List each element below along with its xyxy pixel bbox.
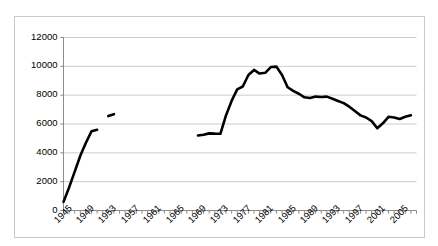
chart-container: 020004000600080001000012000 194519491953… xyxy=(0,0,438,246)
series-1-segment-1945-1951 xyxy=(64,130,98,202)
y-tick-label-4000: 4000 xyxy=(0,147,58,157)
series-1-segment-1953-1954 xyxy=(108,114,114,116)
y-tick-label-0: 0 xyxy=(0,205,58,215)
y-tick-label-2000: 2000 xyxy=(0,176,58,186)
y-tick-label-10000: 10000 xyxy=(0,60,58,70)
y-tick-label-8000: 8000 xyxy=(0,89,58,99)
gridlines xyxy=(64,38,417,182)
y-tick-label-6000: 6000 xyxy=(0,118,58,128)
series-1-segment-1969-2007 xyxy=(198,67,411,136)
y-tick-label-12000: 12000 xyxy=(0,32,58,42)
